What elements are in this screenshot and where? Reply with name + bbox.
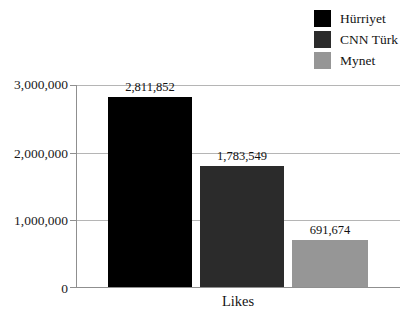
- y-tick-label-2000000: 2,000,000: [0, 146, 68, 162]
- plot-area: 2,811,852 1,783,549 691,674: [76, 85, 400, 288]
- chart-legend: Hürriyet CNN Türk Mynet: [314, 9, 414, 72]
- bar-value-mynet: 691,674: [310, 223, 351, 238]
- y-tick-label-3000000: 3,000,000: [0, 77, 68, 93]
- cropped-title-remnant: [14, 0, 254, 5]
- x-axis-title: Likes: [76, 293, 400, 310]
- legend-item-cnn-turk: CNN Türk: [314, 30, 414, 49]
- legend-swatch-hurriyet: [314, 10, 331, 27]
- legend-swatch-cnn-turk: [314, 31, 331, 48]
- y-tick-label-0: 0: [0, 281, 68, 297]
- bar-cnn-turk[interactable]: 1,783,549: [200, 166, 284, 287]
- bar-value-hurriyet: 2,811,852: [125, 80, 175, 95]
- legend-label-mynet: Mynet: [340, 52, 375, 69]
- bar-chart: Hürriyet CNN Türk Mynet 3,000,000 2,000,…: [0, 0, 416, 321]
- legend-item-mynet: Mynet: [314, 51, 414, 70]
- bar-hurriyet[interactable]: 2,811,852: [108, 97, 192, 287]
- bar-mynet[interactable]: 691,674: [292, 240, 368, 287]
- y-tick-label-1000000: 1,000,000: [0, 213, 68, 229]
- y-axis-tick-labels: 3,000,000 2,000,000 1,000,000 0: [0, 85, 68, 288]
- x-axis-line: [76, 287, 400, 288]
- legend-label-cnn-turk: CNN Türk: [340, 31, 398, 48]
- legend-item-hurriyet: Hürriyet: [314, 9, 414, 28]
- legend-label-hurriyet: Hürriyet: [340, 10, 386, 27]
- y-axis-line: [76, 85, 77, 288]
- legend-swatch-mynet: [314, 52, 331, 69]
- bar-value-cnn-turk: 1,783,549: [217, 149, 267, 164]
